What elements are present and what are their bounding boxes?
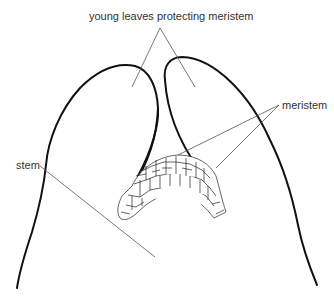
meristem-label: meristem	[282, 100, 327, 111]
diagram-canvas	[0, 0, 334, 303]
young-leaves-label: young leaves protecting meristem	[89, 11, 253, 22]
meristem-leader-upper	[178, 105, 279, 155]
meristem-cell-mass	[118, 155, 226, 220]
meristem-leader-lower	[216, 105, 279, 168]
left-stem-and-leaf-outline	[17, 65, 158, 288]
stem-label: stem	[16, 160, 40, 171]
young-leaves-leader-left	[132, 28, 160, 87]
